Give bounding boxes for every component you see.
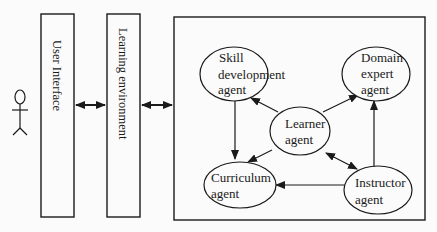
skill-development-agent: Skill development agent xyxy=(200,47,286,101)
learner-instructor-edge xyxy=(326,153,357,169)
agent-label: Skill xyxy=(219,50,244,65)
learner-agent: Learner agent xyxy=(270,107,330,155)
curriculum-agent: Curriculum agent xyxy=(204,162,276,208)
agent-label: Learner xyxy=(285,116,326,131)
domain-expert-agent: Domain expert agent xyxy=(342,47,410,101)
agent-label: agent xyxy=(211,186,240,201)
learner-to-domain-edge xyxy=(323,95,358,112)
agent-label: agent xyxy=(361,82,390,97)
learning-environment-label: Learning environment xyxy=(116,28,130,140)
agent-label: Instructor xyxy=(355,175,406,190)
learning-environment-box: Learning environment xyxy=(107,14,140,217)
agent-label: development xyxy=(218,67,286,82)
agent-architecture-diagram: User Interface Learning environment Skil… xyxy=(0,0,437,232)
agent-label: agent xyxy=(355,192,384,207)
agent-label: agent xyxy=(218,82,247,97)
instructor-agent: Instructor agent xyxy=(344,166,412,214)
user-interface-label: User Interface xyxy=(50,40,64,112)
learner-to-skill-edge xyxy=(251,98,278,112)
agent-label: agent xyxy=(285,132,314,147)
agent-label: Domain xyxy=(361,50,403,65)
learner-to-curriculum-edge xyxy=(248,150,272,162)
user-actor-icon xyxy=(12,90,28,135)
agent-label: expert xyxy=(361,66,394,81)
user-interface-box: User Interface xyxy=(41,14,74,217)
agent-label: Curriculum xyxy=(211,170,271,185)
